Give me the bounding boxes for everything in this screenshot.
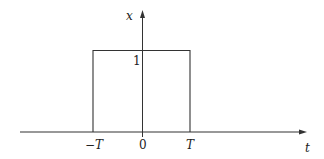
x-axis-arrow-icon — [140, 10, 145, 18]
x-axis — [140, 10, 145, 137]
left-edge-label: −T — [85, 138, 104, 152]
origin-label: 0 — [139, 138, 147, 152]
x-axis-label: x — [126, 9, 133, 23]
t-axis-label: t — [305, 141, 310, 155]
right-edge-label: T — [186, 138, 195, 152]
pulse-height-label: 1 — [133, 54, 141, 68]
rectangular-pulse-diagram: x t 1 −T 0 T — [0, 0, 324, 159]
pulse-curve — [93, 51, 190, 133]
t-axis-arrow-icon — [299, 130, 307, 135]
t-axis — [20, 130, 307, 135]
